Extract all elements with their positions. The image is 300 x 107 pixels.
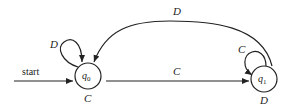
- start-arrow: start: [14, 66, 73, 81]
- q1-below-label: D: [259, 94, 268, 106]
- q0-q1-label: C: [173, 65, 181, 77]
- fsm-diagram: start D q0 C C D C q1 D: [0, 0, 300, 107]
- start-label: start: [22, 66, 39, 77]
- q0-self-loop: D: [49, 38, 82, 67]
- q0-loop-label: D: [49, 38, 58, 50]
- state-q1: q1 D: [251, 66, 277, 106]
- transition-q0-q1: C: [106, 65, 249, 81]
- state-q0: q0 C: [75, 63, 101, 104]
- q0-below-label: C: [84, 92, 92, 104]
- q1-loop-label: C: [238, 43, 246, 55]
- q1-q0-label: D: [172, 5, 181, 17]
- transition-q1-q0: D: [94, 5, 272, 66]
